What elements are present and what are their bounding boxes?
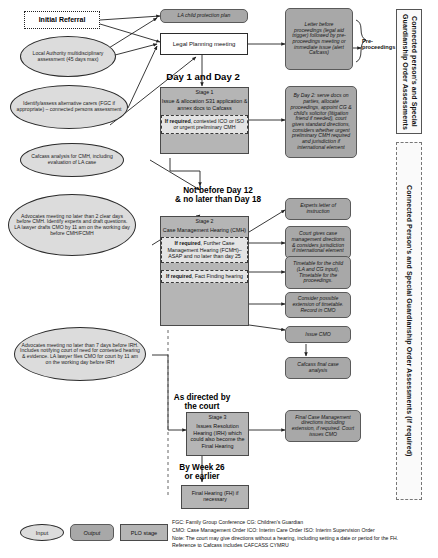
identify-carers-ellipse[interactable]: Identify/assess alternative carers (FGC …: [10, 85, 128, 129]
stage-1-if-required[interactable]: If required, contested ICO or ISO or urg…: [161, 115, 248, 134]
final-hearing-box[interactable]: Final Hearing (FH) if necessary: [181, 485, 249, 509]
identify-carers-label: Identify/assess alternative carers (FGC …: [16, 101, 122, 112]
legend-line-4: Reference to Cafcass includes CAFCASS CY…: [172, 542, 434, 550]
consider-extension-label: Consider possible extension of timetable…: [290, 296, 346, 313]
stage-2-fcmh-label: If required: [175, 240, 201, 246]
day-1-2-label: Day 1 and Day 2: [155, 72, 251, 83]
stage-2-ff-label: If required: [166, 273, 192, 279]
cafcass-analysis-label: Cafcass analysis for CMH, including eval…: [26, 154, 118, 165]
la-child-protection-plan-box[interactable]: LA child protection plan: [160, 9, 248, 23]
advocates-cmh-label: Advocates meeting no later than 2 clear …: [14, 214, 130, 237]
as-directed-label: As directed by the court: [152, 393, 252, 411]
side-panel-bottom-label: Connected Person's and Special Guardians…: [405, 185, 414, 456]
cafcass-final-analysis-label: Cafcass final case analysis: [290, 362, 346, 373]
timetable-for-child-box[interactable]: Timetable for the child (LA and CG input…: [285, 256, 351, 289]
side-panel-bottom: Connected Person's and Special Guardians…: [396, 142, 422, 500]
stage-2-ff-text: , Fact Finding hearing: [192, 273, 243, 279]
initial-referral-box[interactable]: Initial Referral: [24, 11, 100, 29]
legal-planning-meeting-label: Legal Planning meeting: [173, 41, 236, 48]
issue-cmo-label: Issue CMO: [305, 332, 330, 338]
timetable-for-child-label: Timetable for the child (LA and CG input…: [290, 261, 346, 284]
legend-plo-stage-key: PLO stage: [120, 524, 168, 541]
by-day-2-label: By Day 2: serve docs on parties, allocat…: [290, 93, 352, 150]
legend-abbreviations: FGC: Family Group Conference CG: Childre…: [172, 519, 434, 550]
plo-flowchart: Initial Referral Local Authority multidi…: [0, 0, 438, 558]
advocates-irh-label: Advocates meeting no later than 7 days b…: [20, 343, 140, 366]
stage-1-box[interactable]: Stage 1 Issue & allocation S31 applicati…: [160, 87, 249, 154]
experts-letter-label: Experts letter of instruction: [290, 203, 346, 214]
stage-3-header: Stage 3: [187, 413, 248, 422]
court-case-mgmt-directions-box[interactable]: Court gives case management directions &…: [285, 226, 351, 259]
initial-referral-label: Initial Referral: [39, 16, 86, 24]
stage-2-fact-finding[interactable]: If required, Fact Finding hearing: [161, 270, 248, 283]
issue-cmo-box[interactable]: Issue CMO: [285, 326, 351, 343]
stage-1-body: Issue & allocation S31 application & ann…: [158, 97, 251, 114]
cafcass-final-analysis-box[interactable]: Cafcass final case analysis: [285, 357, 351, 379]
by-day-2-box[interactable]: By Day 2: serve docs on parties, allocat…: [285, 86, 357, 158]
final-case-mgmt-directions-label: Final Case Management directions includi…: [290, 415, 356, 438]
la-assessment-ellipse[interactable]: Local Authority multidisciplinary assess…: [20, 36, 116, 77]
final-hearing-label: Final Hearing (FH) if necessary: [182, 491, 248, 503]
legend-output-label: Output: [84, 530, 101, 536]
stage-2-fcmh[interactable]: If required, Further Case Management Hea…: [161, 237, 248, 263]
pre-proceedings-line2: proceedings: [362, 44, 392, 50]
stage-2-box[interactable]: Stage 2 Case Management Hearing (CMH) If…: [160, 216, 249, 326]
week-26-line2: or earlier: [152, 472, 252, 481]
as-directed-line2: the court: [152, 402, 252, 411]
stage-1-header: Stage 1: [161, 88, 248, 97]
la-child-protection-plan-label: LA child protection plan: [178, 13, 231, 19]
stage-2-header: Stage 2: [161, 217, 248, 226]
week-26-line1: By Week 26: [152, 463, 252, 472]
final-case-mgmt-directions-box[interactable]: Final Case Management directions includi…: [285, 410, 361, 442]
stage-3-body: Issues Resolution Hearing (IRH) which co…: [184, 422, 251, 452]
legal-planning-meeting-box[interactable]: Legal Planning meeting: [160, 33, 248, 55]
not-before-day-12-line2: & no later than Day 18: [152, 195, 284, 204]
cafcass-analysis-ellipse[interactable]: Cafcass analysis for CMH, including eval…: [20, 143, 124, 177]
pre-proceedings-bracket-label: Pre- proceedings: [362, 38, 392, 51]
legend-line-3: Note: The court may give directions with…: [172, 535, 434, 543]
consider-extension-box[interactable]: Consider possible extension of timetable…: [285, 292, 351, 318]
advocates-irh-ellipse[interactable]: Advocates meeting no later than 7 days b…: [14, 327, 146, 381]
legend-input-label: Input: [36, 530, 48, 536]
not-before-day-12-label: Not before Day 12 & no later than Day 18: [152, 186, 284, 204]
not-before-day-12-line1: Not before Day 12: [152, 186, 284, 195]
side-panel-top: Connected person's and Special Guardians…: [396, 9, 422, 134]
legend-line-2: CMO: Case Management Order ICO: Interim …: [172, 527, 434, 535]
legend-output-key: Output: [70, 524, 114, 541]
week-26-label: By Week 26 or earlier: [152, 463, 252, 481]
advocates-cmh-ellipse[interactable]: Advocates meeting no later than 2 clear …: [8, 194, 136, 256]
stage-1-if-required-label: If required: [165, 118, 191, 124]
la-assessment-label: Local Authority multidisciplinary assess…: [26, 51, 110, 62]
legend-input-key: Input: [20, 524, 64, 541]
legend-line-1: FGC: Family Group Conference CG: Childre…: [172, 519, 434, 527]
letter-before-proceedings-box[interactable]: Letter before proceedings (legal aid tri…: [285, 8, 353, 70]
court-case-mgmt-directions-label: Court gives case management directions &…: [290, 231, 346, 254]
as-directed-line1: As directed by: [152, 393, 252, 402]
stage-2-body: Case Management Hearing (CMH): [158, 226, 251, 236]
stage-3-box[interactable]: Stage 3 Issues Resolution Hearing (IRH) …: [186, 412, 249, 456]
experts-letter-box[interactable]: Experts letter of instruction: [285, 198, 351, 220]
letter-before-proceedings-label: Letter before proceedings (legal aid tri…: [290, 22, 348, 56]
side-panel-top-label: Connected person's and Special Guardians…: [400, 10, 418, 133]
legend-plo-stage-label: PLO stage: [131, 530, 157, 536]
